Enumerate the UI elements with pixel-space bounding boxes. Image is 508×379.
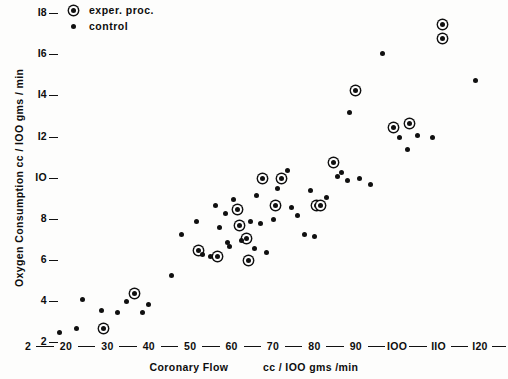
data-point-control	[368, 182, 373, 187]
data-point-control	[380, 51, 385, 56]
x-tick-30: 30	[101, 340, 113, 352]
x-tick-40: 40	[143, 340, 155, 352]
data-point-control	[115, 310, 120, 315]
x-tick-100: IOO	[387, 340, 407, 352]
x-axis-title-units: cc / IOO gms /min	[263, 361, 359, 373]
data-point-exper-proc	[246, 258, 251, 263]
data-point-exper-proc	[279, 176, 284, 181]
data-point-control	[99, 308, 104, 313]
x-tick-20: 20	[60, 340, 72, 352]
data-point-control	[357, 176, 362, 181]
data-point-control	[252, 246, 257, 251]
data-point-control	[200, 252, 205, 257]
x-tick-70: 70	[267, 340, 279, 352]
data-point-control	[227, 244, 232, 249]
x-tick-110: IIO	[431, 340, 446, 352]
data-point-control	[140, 310, 145, 315]
data-point-exper-proc	[235, 207, 240, 212]
x-tick-120: I20	[472, 340, 488, 352]
data-point-control	[80, 297, 85, 302]
data-point-exper-proc	[244, 236, 249, 241]
data-point-exper-proc	[215, 254, 220, 259]
x-axis-origin-label: 2	[25, 340, 31, 352]
data-point-control	[254, 193, 259, 198]
data-point-control	[124, 299, 129, 304]
x-tick-60: 60	[225, 340, 237, 352]
data-point-control	[223, 211, 228, 216]
data-point-control	[217, 225, 222, 230]
data-point-exper-proc	[331, 160, 336, 165]
x-axis-title-main: Coronary Flow	[150, 361, 229, 373]
data-point-control	[335, 174, 340, 179]
data-point-control	[194, 219, 199, 224]
data-point-control	[179, 232, 184, 237]
data-point-control	[308, 188, 313, 193]
data-point-control	[415, 133, 420, 138]
data-point-control	[312, 234, 317, 239]
data-point-exper-proc	[260, 176, 265, 181]
data-point-control	[289, 205, 294, 210]
data-point-control	[324, 195, 329, 200]
data-point-control	[473, 78, 478, 83]
plot-area	[0, 0, 508, 379]
data-point-exper-proc	[407, 121, 412, 126]
data-point-control	[347, 110, 352, 115]
data-point-exper-proc	[440, 22, 445, 27]
data-point-control	[74, 326, 79, 331]
data-point-control	[239, 238, 244, 243]
data-point-control	[231, 197, 236, 202]
data-point-control	[208, 254, 213, 259]
data-point-exper-proc	[391, 125, 396, 130]
data-point-exper-proc	[440, 36, 445, 41]
data-point-control	[405, 147, 410, 152]
data-point-control	[271, 217, 276, 222]
data-point-exper-proc	[132, 291, 137, 296]
data-point-control	[146, 302, 151, 307]
x-tick-50: 50	[184, 340, 196, 352]
data-point-exper-proc	[273, 203, 278, 208]
data-point-exper-proc	[101, 326, 106, 331]
data-point-exper-proc	[318, 203, 323, 208]
data-point-control	[258, 221, 263, 226]
data-point-control	[295, 213, 300, 218]
x-tick-90: 90	[350, 340, 362, 352]
data-point-exper-proc	[237, 223, 242, 228]
data-point-control	[57, 330, 62, 335]
data-point-control	[430, 135, 435, 140]
x-axis-title: Coronary Flow cc / IOO gms /min	[0, 361, 508, 373]
x-tick-80: 80	[308, 340, 320, 352]
scatter-plot-figure: exper. proc. control 2468IOI2I4I6I8 Oxyg…	[0, 0, 508, 379]
data-point-control	[397, 135, 402, 140]
data-point-control	[339, 170, 344, 175]
x-axis-ticks: 2030405060708090IOOIIOI202	[0, 340, 508, 356]
data-point-control	[275, 186, 280, 191]
data-point-control	[345, 178, 350, 183]
data-point-control	[213, 203, 218, 208]
data-point-exper-proc	[353, 88, 358, 93]
data-point-control	[285, 168, 290, 173]
data-point-control	[169, 273, 174, 278]
data-point-control	[302, 232, 307, 237]
data-point-control	[264, 250, 269, 255]
data-point-control	[248, 219, 253, 224]
